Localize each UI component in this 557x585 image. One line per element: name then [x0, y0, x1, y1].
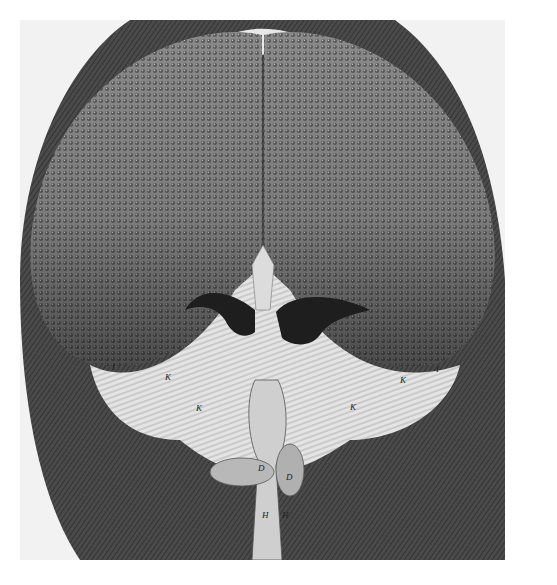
plate-label: H: [262, 510, 269, 520]
proboscis-lobe-right: [276, 444, 304, 496]
plate-label: I: [436, 364, 439, 374]
plate-label: K: [196, 403, 202, 413]
plate-label: D: [258, 463, 265, 473]
plate-label: K: [400, 375, 406, 385]
plate-label: I: [112, 362, 115, 372]
fly-head-illustration: [20, 20, 505, 560]
engraving-plate: I K K K K I D D H H: [20, 20, 505, 560]
plate-label: K: [165, 372, 171, 382]
plate-label: H: [282, 510, 289, 520]
plate-label: K: [350, 402, 356, 412]
plate-label: D: [286, 472, 293, 482]
